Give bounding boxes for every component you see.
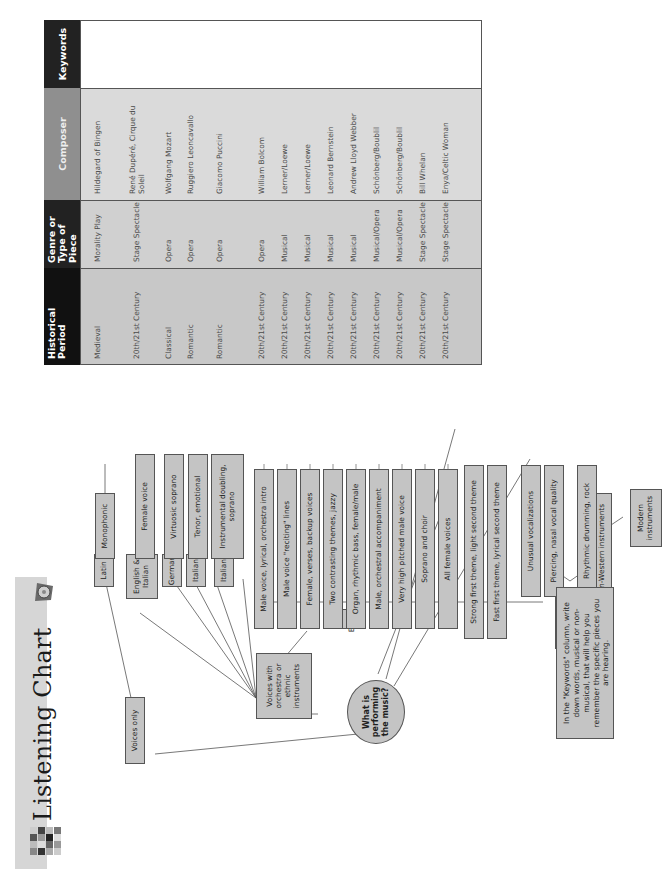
table-row: 20th/21st Century Stage Spectacle Bill W… — [418, 20, 432, 365]
table-row: Romantic Opera Ruggiero Leoncavallo — [186, 20, 200, 365]
table-row: 20th/21st Century Musical Lerner/Loewe — [303, 20, 317, 365]
table-row: Romantic Opera Giacomo Puccini — [215, 20, 229, 365]
table-row: 20th/21st Century Musical Lerner/Loewe — [280, 20, 294, 365]
table-lower-section — [460, 20, 482, 365]
table-row: 20th/21st Century Opera William Bolcom — [257, 20, 271, 365]
table-row: 20th/21st Century Musical/Opera Schönber… — [395, 20, 409, 365]
table-row: Classical Opera Wolfgang Mozart — [164, 20, 178, 365]
table-header-genre: Genre or Type of Piece — [44, 200, 80, 268]
table-row: 20th/21st Century Stage Spectacle Enya/C… — [441, 20, 455, 365]
table-header-period: Historical Period — [44, 268, 80, 365]
table-row: Medieval Morality Play Hildegard of Bing… — [93, 20, 107, 365]
table-header-keywords: Keywords — [44, 20, 80, 88]
table-row: 20th/21st Century Musical/Opera Schönber… — [372, 20, 386, 365]
table-row: 20th/21st Century Stage Spectacle René D… — [129, 20, 151, 365]
table-row: 20th/21st Century Musical Leonard Bernst… — [326, 20, 340, 365]
table-header-composer: Composer — [44, 88, 80, 200]
table-row: 20th/21st Century Musical Andrew Lloyd W… — [349, 20, 363, 365]
